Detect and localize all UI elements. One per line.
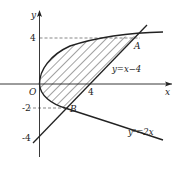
x-tick-4: 4 — [88, 87, 94, 97]
y-axis-label: y — [30, 10, 37, 20]
y-tick-neg4: -4 — [22, 133, 31, 143]
y-tick-neg2: -2 — [22, 103, 31, 113]
region-diagram: y x O 4 -2 -4 4 A B y=x−4 y²=2x — [0, 0, 181, 170]
point-b-label: B — [69, 104, 77, 114]
y-tick-4: 4 — [30, 33, 36, 43]
parabola-equation-label: y²=2x — [127, 127, 154, 137]
point-a-label: A — [133, 41, 141, 51]
origin-label: O — [29, 87, 37, 97]
x-axis-label: x — [165, 87, 170, 97]
line-equation-label: y=x−4 — [111, 64, 141, 74]
